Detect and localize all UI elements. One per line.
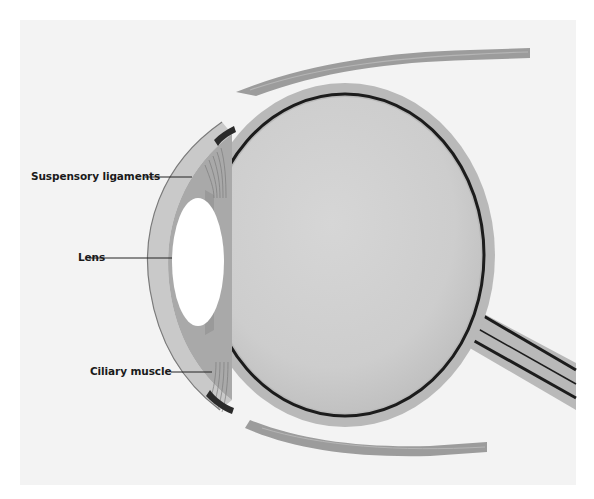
lens-shape [172,198,224,326]
label-suspensory-ligaments: Suspensory ligaments [31,170,160,182]
inferior-rectus-muscle [245,420,487,456]
label-lens: Lens [78,251,105,263]
label-ciliary-muscle: Ciliary muscle [90,365,171,377]
eye-cross-section-diagram [0,0,594,499]
vitreous-body [209,97,481,413]
